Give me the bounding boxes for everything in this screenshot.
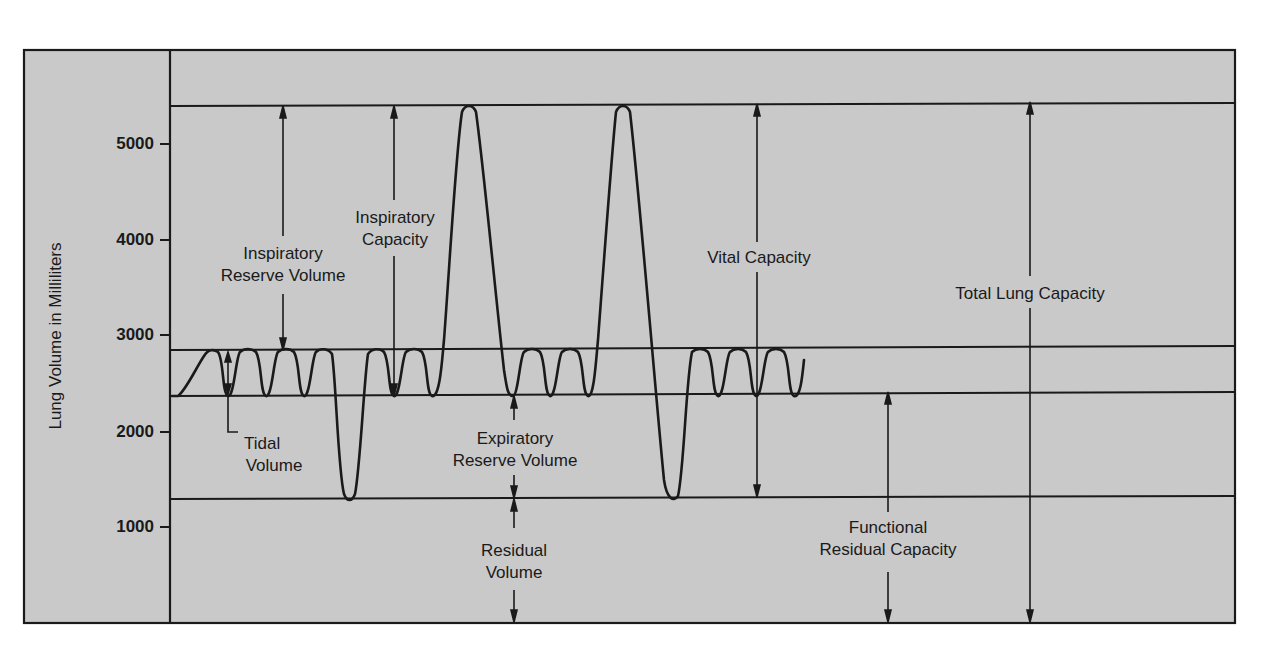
y-tick-1000: 1000 bbox=[94, 517, 154, 537]
label-frc-line2: Residual Capacity bbox=[798, 539, 978, 561]
lung-volumes-diagram: Lung Volume in Milliliters 5000 4000 300… bbox=[0, 0, 1277, 652]
label-frc-line1: Functional bbox=[798, 517, 978, 539]
label-ic-line2: Capacity bbox=[340, 229, 450, 251]
y-tick-2000: 2000 bbox=[94, 422, 154, 442]
y-tick-4000: 4000 bbox=[94, 230, 154, 250]
label-frc: Functional Residual Capacity bbox=[798, 517, 978, 561]
label-tidal-line2: Volume bbox=[234, 455, 314, 477]
label-erv-line2: Reserve Volume bbox=[430, 450, 600, 472]
y-tick-3000: 3000 bbox=[94, 325, 154, 345]
label-tidal: Tidal Volume bbox=[234, 433, 314, 477]
label-ic: Inspiratory Capacity bbox=[340, 207, 450, 251]
label-rv-line2: Volume bbox=[464, 562, 564, 584]
label-erv-line1: Expiratory bbox=[430, 428, 600, 450]
label-tlc: Total Lung Capacity bbox=[926, 283, 1134, 305]
diagram-canvas bbox=[0, 0, 1277, 652]
label-irv-line2: Reserve Volume bbox=[200, 265, 366, 287]
label-ic-line1: Inspiratory bbox=[340, 207, 450, 229]
label-tidal-line1: Tidal bbox=[234, 433, 314, 455]
y-axis-title: Lung Volume in Milliliters bbox=[46, 236, 66, 436]
label-erv: Expiratory Reserve Volume bbox=[430, 428, 600, 472]
outer-frame bbox=[24, 50, 1235, 623]
y-tick-5000: 5000 bbox=[94, 134, 154, 154]
label-rv: Residual Volume bbox=[464, 540, 564, 584]
label-vc: Vital Capacity bbox=[684, 247, 834, 269]
label-rv-line1: Residual bbox=[464, 540, 564, 562]
